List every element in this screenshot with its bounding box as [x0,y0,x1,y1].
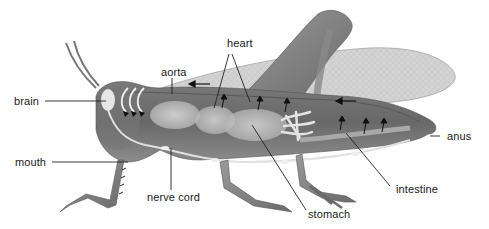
label-heart: heart [227,37,253,49]
stomach-organ [223,109,287,141]
label-nerve-cord: nerve cord [147,191,200,203]
label-intestine: intestine [396,183,438,195]
middle-leg [220,160,292,212]
antenna [66,43,96,88]
crop-organ [150,101,200,129]
brain-organ [101,89,115,111]
grasshopper-anatomy-diagram: brain aorta heart mouth nerve cord stoma… [0,0,489,229]
label-brain: brain [14,95,39,107]
label-aorta: aorta [161,66,187,78]
label-stomach: stomach [308,208,350,220]
hind-leg-tarsus [296,154,356,202]
label-anus: anus [447,130,471,142]
front-leg [60,160,124,212]
label-mouth: mouth [15,156,46,168]
